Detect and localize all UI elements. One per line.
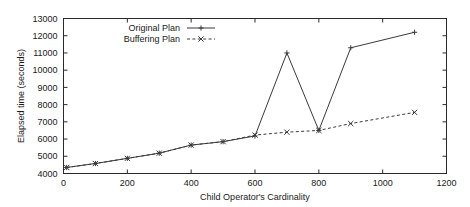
y-tick-label: 13000 [32,14,57,24]
data-point [348,45,353,50]
y-tick-label: 6000 [37,134,57,144]
y-axis-ticks [64,19,447,174]
series-line [67,112,415,167]
x-tick-label: 1000 [373,178,393,188]
y-tick-label: 7000 [37,117,57,127]
legend: Original PlanBuffering Plan [124,23,215,44]
x-tick-label: 200 [120,178,135,188]
data-point [412,110,417,115]
x-tick-label: 600 [247,178,262,188]
y-tick-label: 8000 [37,100,57,110]
y-tick-label: 4000 [37,169,57,179]
data-point [348,121,353,126]
y-tick-label: 10000 [32,65,57,75]
data-point [412,30,417,35]
x-axis-label: Child Operator's Cardinality [200,192,310,202]
plot-frame [64,19,447,174]
y-tick-label: 9000 [37,83,57,93]
data-point [284,50,289,55]
y-axis-tick-labels: 4000500060007000800090001000011000120001… [32,14,57,179]
y-tick-label: 5000 [37,151,57,161]
x-tick-label: 400 [184,178,199,188]
x-tick-label: 0 [61,178,66,188]
legend-label: Buffering Plan [124,34,180,44]
series-original-plan [64,30,417,170]
chart-container: 4000500060007000800090001000011000120001… [0,0,470,207]
x-axis-tick-labels: 020040060080010001200 [61,178,457,188]
y-axis-label: Elapsed time (seconds) [16,49,26,143]
x-axis-ticks [64,19,447,174]
y-tick-label: 11000 [33,48,57,58]
x-tick-label: 1200 [436,178,456,188]
series-buffering-plan [64,110,417,170]
series-line [67,32,415,167]
line-chart: 4000500060007000800090001000011000120001… [0,0,470,207]
legend-marker-sample [198,25,203,30]
series-group [64,30,417,170]
x-tick-label: 800 [311,178,326,188]
y-tick-label: 12000 [32,31,57,41]
legend-label: Original Plan [128,23,180,33]
